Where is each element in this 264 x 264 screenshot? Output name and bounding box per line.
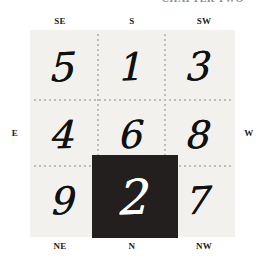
compass-label-se: SE <box>47 16 73 26</box>
grid-cell-r1c0[interactable]: 4 <box>30 100 98 169</box>
running-head: CHAPTER TWO <box>162 0 244 4</box>
grid-cell-value: 6 <box>120 115 145 154</box>
grid-cell-value: 3 <box>186 46 212 87</box>
compass-label-w: W <box>241 128 257 138</box>
grid-cell-value: 1 <box>120 47 145 86</box>
grid-cell-value: 4 <box>51 115 77 153</box>
grid-cell-r0c1[interactable]: 1 <box>98 32 166 101</box>
compass-label-n: N <box>119 241 145 251</box>
grid-cell-value: 7 <box>186 181 212 220</box>
compass-label-e: E <box>7 128 23 138</box>
grid-cell-r0c0[interactable]: 5 <box>30 32 98 101</box>
grid-cell-r0c2[interactable]: 3 <box>165 32 233 101</box>
compass-label-nw: NW <box>191 241 217 251</box>
grid-cell-value: 2 <box>119 172 151 221</box>
grid-cell-value: 5 <box>51 46 78 87</box>
grid-cell-value: 8 <box>186 115 212 154</box>
compass-label-ne: NE <box>47 241 73 251</box>
compass-label-s: S <box>119 16 145 26</box>
page-canvas: CHAPTER TWO SE S SW E W NE N NW 5 1 3 4 … <box>0 0 264 264</box>
grid-cell-highlighted-r2c1[interactable]: 2 <box>92 155 178 238</box>
grid-cell-value: 9 <box>51 181 77 220</box>
grid-cell-r2c0[interactable]: 9 <box>30 166 98 235</box>
compass-label-sw: SW <box>191 16 217 26</box>
magic-square-grid: 5 1 3 4 6 8 9 7 2 <box>30 30 235 237</box>
